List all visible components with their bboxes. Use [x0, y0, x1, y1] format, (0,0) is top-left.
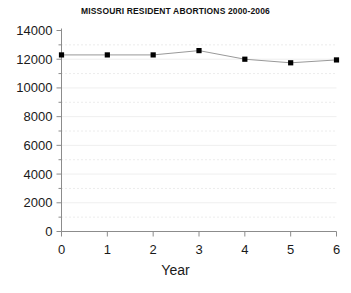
chart-container: MISSOURI RESIDENT ABORTIONS 2000-2006 02…: [0, 0, 351, 293]
x-tick-label: 5: [271, 243, 311, 256]
y-tick-label: 14000: [16, 24, 52, 37]
y-tick-label: 2000: [24, 196, 53, 209]
y-axis-ticks: [57, 31, 62, 232]
minor-gridlines: [62, 45, 337, 217]
y-tick-label: 4000: [24, 168, 53, 181]
y-tick-label: 6000: [24, 139, 53, 152]
y-tick-label: 10000: [16, 81, 52, 94]
x-tick-label: 0: [42, 243, 82, 256]
y-tick-label: 12000: [16, 53, 52, 66]
major-gridlines: [62, 59, 337, 203]
x-tick-label: 4: [225, 243, 265, 256]
x-tick-label: 2: [133, 243, 173, 256]
x-axis-title: Year: [0, 262, 351, 278]
y-tick-label: 0: [45, 225, 52, 238]
x-tick-label: 3: [179, 243, 219, 256]
y-tick-label: 8000: [24, 110, 53, 123]
x-tick-label: 1: [87, 243, 127, 256]
x-axis-ticks: [62, 232, 337, 237]
x-tick-label: 6: [317, 243, 351, 256]
